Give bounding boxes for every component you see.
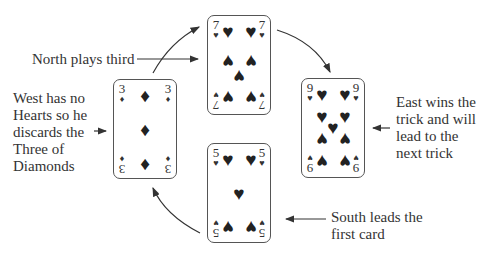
heart-pip-icon: ♥ (241, 150, 261, 169)
heart-pip-icon: ♥ (241, 22, 261, 41)
heart-pip-icon: ♥ (218, 150, 238, 169)
arrow-west-to-north (153, 27, 199, 73)
card-south-five-hearts: 5♥ 5♥ 5♥ 5♥ ♥ ♥ ♥ ♥ ♥ (207, 143, 271, 243)
card-north-seven-hearts: 7♥ 7♥ 7♥ 7♥ ♥ ♥ ♥ ♥ ♥ ♥ ♥ (207, 15, 271, 115)
heart-pip-icon: ♥ (312, 152, 332, 171)
heart-pip-icon: ♥ (229, 67, 249, 86)
diamond-pip-icon: ♦ (135, 120, 155, 139)
heart-pip-icon: ♥ (312, 130, 332, 149)
arrow-south-to-west (153, 188, 200, 233)
card-index: 3♦ (117, 83, 127, 104)
card-index: 3♦ (117, 154, 127, 175)
arrow-north-to-east (277, 30, 330, 72)
heart-pip-icon: ♥ (229, 184, 249, 203)
heart-pip-icon: ♥ (335, 152, 355, 171)
heart-pip-icon: ♥ (218, 88, 238, 107)
diamond-pip-icon: ♦ (135, 154, 155, 173)
heart-pip-icon: ♥ (312, 85, 332, 104)
card-index: 3♦ (163, 83, 173, 104)
diamond-pip-icon: ♦ (135, 86, 155, 105)
heart-pip-icon: ♥ (241, 218, 261, 237)
label-south: South leads the first card (331, 209, 423, 243)
label-north: North plays third (32, 51, 135, 68)
heart-pip-icon: ♥ (218, 22, 238, 41)
heart-pip-icon: ♥ (218, 218, 238, 237)
card-west-three-diamonds: 3♦ 3♦ 3♦ 3♦ ♦ ♦ ♦ (113, 79, 177, 179)
heart-pip-icon: ♥ (335, 85, 355, 104)
label-west: West has no Hearts so he discards the Th… (13, 90, 87, 175)
heart-pip-icon: ♥ (335, 130, 355, 149)
card-index: 3♦ (163, 154, 173, 175)
label-east: East wins the trick and will lead to the… (396, 94, 476, 162)
heart-pip-icon: ♥ (241, 88, 261, 107)
card-east-nine-hearts: 9♥ 9♥ 9♥ 9♥ ♥ ♥ ♥ ♥ ♥ ♥ ♥ ♥ ♥ (301, 78, 365, 178)
